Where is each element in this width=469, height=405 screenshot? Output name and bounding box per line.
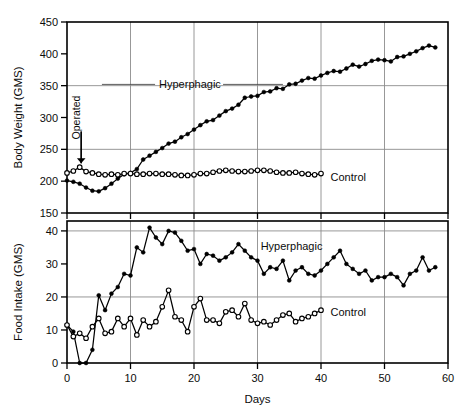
data-point-marker	[154, 319, 159, 324]
data-point-marker	[128, 171, 133, 176]
data-point-marker	[237, 103, 241, 107]
data-point-marker	[71, 180, 75, 184]
data-point-marker	[211, 318, 216, 323]
data-point-marker	[294, 82, 298, 86]
data-point-marker	[185, 329, 190, 334]
data-point-marker	[402, 54, 406, 58]
data-point-marker	[230, 169, 235, 174]
x-axis: 0102030405060	[64, 363, 454, 384]
data-point-marker	[147, 324, 152, 329]
data-point-marker	[262, 272, 266, 276]
data-point-marker	[160, 146, 164, 150]
data-point-marker	[198, 262, 202, 266]
data-point-marker	[262, 90, 266, 94]
data-point-marker	[71, 334, 76, 339]
data-point-marker	[249, 95, 253, 99]
data-point-marker	[306, 314, 311, 319]
data-point-marker	[249, 255, 253, 259]
data-point-marker	[300, 265, 304, 269]
data-point-marker	[84, 336, 89, 341]
data-point-marker	[237, 242, 241, 246]
data-point-marker	[312, 173, 317, 178]
data-point-marker	[338, 70, 342, 74]
data-point-marker	[325, 262, 329, 266]
data-point-marker	[236, 314, 241, 319]
data-point-marker	[103, 173, 108, 178]
data-point-marker	[218, 114, 222, 118]
data-point-marker	[275, 267, 279, 271]
y-tick-label: 450	[40, 16, 58, 28]
data-point-marker	[345, 67, 349, 71]
data-point-marker	[402, 284, 406, 288]
data-point-marker	[389, 60, 393, 64]
data-point-marker	[275, 86, 279, 90]
gridlines	[67, 221, 448, 363]
data-point-marker	[351, 267, 355, 271]
data-point-marker	[223, 310, 228, 315]
data-point-marker	[351, 63, 355, 67]
data-point-marker	[325, 71, 329, 75]
data-point-marker	[116, 285, 120, 289]
y-tick-label: 40	[46, 225, 58, 237]
data-point-marker	[167, 142, 171, 146]
data-point-marker	[230, 250, 234, 254]
data-point-marker	[312, 311, 317, 316]
annotation-hyperphagic: Hyperphagic	[159, 78, 221, 90]
data-point-marker	[109, 172, 114, 177]
data-point-marker	[313, 77, 317, 81]
data-point-marker	[167, 229, 171, 233]
data-point-marker	[217, 169, 222, 174]
data-point-marker	[116, 173, 121, 178]
data-point-marker	[421, 46, 425, 50]
data-point-marker	[306, 172, 311, 177]
data-point-marker	[179, 135, 183, 139]
x-tick-label: 40	[315, 372, 327, 384]
data-point-marker	[230, 107, 234, 111]
data-point-marker	[192, 173, 197, 178]
series-line	[67, 228, 435, 363]
data-point-marker	[319, 269, 323, 273]
data-point-marker	[364, 269, 368, 273]
data-point-marker	[338, 249, 342, 253]
data-point-marker	[408, 272, 412, 276]
data-point-marker	[204, 318, 209, 323]
data-point-marker	[370, 279, 374, 283]
data-point-marker	[281, 313, 286, 318]
data-point-marker	[300, 79, 304, 83]
data-point-marker	[90, 171, 95, 176]
data-point-marker	[173, 314, 178, 319]
data-point-marker	[319, 171, 324, 176]
data-point-marker	[332, 255, 336, 259]
data-point-marker	[395, 55, 399, 59]
data-point-marker	[249, 169, 254, 174]
annotation-control: Control	[331, 171, 366, 183]
data-point-marker	[243, 301, 248, 306]
data-point-marker	[427, 44, 431, 48]
data-point-marker	[249, 318, 254, 323]
data-point-marker	[306, 272, 310, 276]
data-point-marker	[294, 269, 298, 273]
data-point-marker	[135, 246, 139, 250]
annotations: HyperphagicControl	[261, 240, 366, 318]
data-point-marker	[198, 296, 203, 301]
data-point-marker	[84, 186, 88, 190]
data-point-marker	[91, 189, 95, 193]
data-point-marker	[147, 171, 152, 176]
data-point-marker	[166, 172, 171, 177]
data-point-marker	[198, 123, 202, 127]
gridlines	[67, 22, 448, 213]
data-point-marker	[243, 96, 247, 100]
data-point-marker	[78, 361, 82, 365]
data-point-marker	[281, 171, 286, 176]
data-point-marker	[160, 305, 165, 310]
y-tick-label: 0	[52, 357, 58, 369]
data-point-marker	[300, 316, 305, 321]
data-point-marker	[370, 59, 374, 63]
data-point-marker	[376, 275, 380, 279]
data-point-marker	[179, 318, 184, 323]
data-point-marker	[217, 321, 222, 326]
data-point-marker	[243, 169, 248, 174]
data-point-marker	[71, 169, 76, 174]
data-point-marker	[116, 316, 121, 321]
data-point-marker	[414, 49, 418, 53]
